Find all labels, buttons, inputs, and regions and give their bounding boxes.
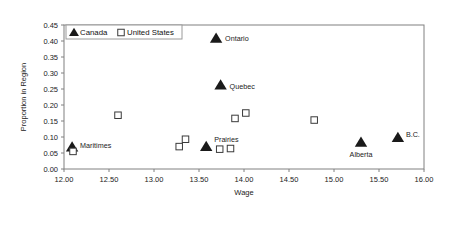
y-tick-label: 0.45: [43, 21, 58, 30]
data-point-canada: [210, 33, 222, 43]
y-tick-label: 0.40: [43, 37, 58, 46]
chart-canvas: 0.000.050.100.150.200.250.300.350.400.45…: [0, 0, 458, 231]
data-point-united-states: [182, 136, 189, 143]
x-tick-label: 13.00: [145, 175, 164, 184]
x-tick-label: 14.00: [235, 175, 254, 184]
data-point-united-states: [176, 143, 183, 150]
data-point-united-states: [115, 112, 122, 119]
y-tick-label: 0.15: [43, 117, 58, 126]
y-tick-label: 0.20: [43, 101, 58, 110]
data-point-label: Alberta: [350, 150, 373, 159]
data-point-canada: [214, 79, 226, 89]
x-tick-label: 12.50: [100, 175, 119, 184]
legend-label-united-states: United States: [127, 28, 174, 37]
x-tick-label: 13.50: [190, 175, 209, 184]
x-tick-label: 15.00: [325, 175, 344, 184]
data-point-label: Maritimes: [80, 141, 112, 150]
data-point-united-states: [227, 145, 234, 152]
y-axis-title: Proportion in Region: [19, 63, 28, 131]
data-point-canada: [392, 132, 404, 142]
x-axis-title: Wage: [234, 188, 253, 197]
y-tick-label: 0.00: [43, 165, 58, 174]
x-tick-label: 14.50: [280, 175, 299, 184]
data-point-united-states: [70, 148, 77, 155]
data-point-label: Ontario: [225, 34, 249, 43]
y-tick-label: 0.10: [43, 133, 58, 142]
data-point-canada: [200, 141, 212, 151]
y-tick-label: 0.25: [43, 85, 58, 94]
data-point-united-states: [216, 146, 223, 153]
legend-marker-united-states: [118, 29, 125, 36]
y-tick-label: 0.30: [43, 69, 58, 78]
y-tick-label: 0.35: [43, 53, 58, 62]
data-point-united-states: [232, 115, 239, 122]
plot-frame: [64, 25, 424, 169]
x-tick-label: 12.00: [55, 175, 74, 184]
x-tick-label: 15.50: [370, 175, 389, 184]
data-point-canada: [355, 137, 367, 147]
data-point-united-states: [243, 110, 250, 117]
x-tick-label: 16.00: [415, 175, 434, 184]
data-point-united-states: [311, 117, 318, 124]
data-point-label: Prairies: [214, 135, 239, 144]
legend-label-canada: Canada: [80, 28, 108, 37]
scatter-chart: 0.000.050.100.150.200.250.300.350.400.45…: [0, 0, 458, 231]
data-point-label: B.C.: [406, 130, 420, 139]
y-tick-label: 0.05: [43, 149, 58, 158]
data-point-label: Quebec: [230, 82, 256, 91]
